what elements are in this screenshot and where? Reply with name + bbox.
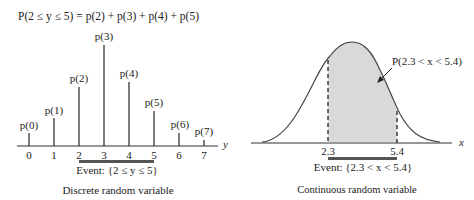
spike-label-4: p(4) xyxy=(120,67,139,80)
discrete-tick-labels: 0 1 2 3 4 5 6 7 xyxy=(26,149,207,161)
discrete-panel: P(2 ≤ y ≤ 5) = p(2) + p(3) + p(4) + p(5)… xyxy=(17,10,228,196)
spike-label-6: p(6) xyxy=(171,118,190,131)
shaded-probability-area xyxy=(328,42,397,142)
tick-2: 2 xyxy=(76,149,82,161)
discrete-caption: Discrete random variable xyxy=(62,184,173,196)
continuous-event-bar xyxy=(328,157,397,160)
continuous-caption: Continuous random variable xyxy=(297,184,417,195)
continuous-panel: x P(2.3 < x < 5.4) 2.3 5.4 Event: {2.3 <… xyxy=(251,42,464,195)
spike-label-0: p(0) xyxy=(20,119,39,132)
spike-labels: p(0) p(1) p(2) p(3) p(4) p(5) p(6) p(7) xyxy=(20,30,214,138)
spike-label-5: p(5) xyxy=(145,96,164,109)
area-probability-label: P(2.3 < x < 5.4) xyxy=(392,55,462,68)
spike-label-1: p(1) xyxy=(45,104,64,117)
lower-bound-label: 2.3 xyxy=(321,145,335,157)
tick-1: 1 xyxy=(51,149,57,161)
tick-4: 4 xyxy=(126,149,132,161)
tick-0: 0 xyxy=(26,149,32,161)
spike-label-2: p(2) xyxy=(70,72,89,85)
discrete-event-label: Event: {2 ≤ y ≤ 5} xyxy=(76,164,158,176)
spike-label-3: p(3) xyxy=(95,30,114,43)
probability-spikes xyxy=(29,45,204,146)
tick-5: 5 xyxy=(151,149,157,161)
probability-figure: P(2 ≤ y ≤ 5) = p(2) + p(3) + p(4) + p(5)… xyxy=(0,0,474,200)
tick-7: 7 xyxy=(201,149,207,161)
spike-label-7: p(7) xyxy=(195,125,214,138)
discrete-axis-label: y xyxy=(222,138,228,150)
discrete-event-bar xyxy=(79,160,154,163)
tick-3: 3 xyxy=(101,149,107,161)
continuous-axis-label: x xyxy=(458,136,464,148)
tick-6: 6 xyxy=(176,149,182,161)
upper-bound-label: 5.4 xyxy=(390,145,404,157)
discrete-formula: P(2 ≤ y ≤ 5) = p(2) + p(3) + p(4) + p(5) xyxy=(18,10,199,23)
continuous-event-label: Event: {2.3 < x < 5.4} xyxy=(314,161,412,173)
